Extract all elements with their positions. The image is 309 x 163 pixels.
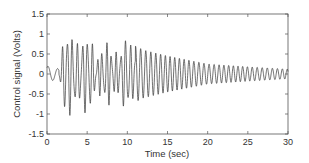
y-tick-label: 0.5 (31, 49, 44, 59)
x-tick-label: 15 (162, 137, 172, 147)
x-tick-label: 0 (44, 137, 49, 147)
plot-area (47, 14, 288, 134)
y-tick-label: -0.5 (28, 89, 44, 99)
y-tick-label: 0 (39, 69, 44, 79)
y-tick-label: -1 (36, 109, 44, 119)
x-tick-label: 25 (243, 137, 253, 147)
line-chart: 051015202530-1.5-1-0.500.511.5 Time (sec… (0, 0, 309, 163)
y-axis-label: Control signal (Volts) (11, 30, 22, 118)
x-tick-label: 20 (203, 137, 213, 147)
x-axis-label: Time (sec) (145, 148, 190, 159)
x-tick-label: 30 (283, 137, 293, 147)
y-tick-label: 1.5 (31, 9, 44, 19)
y-tick-label: 1 (39, 29, 44, 39)
x-tick-label: 10 (122, 137, 132, 147)
x-tick-label: 5 (85, 137, 90, 147)
y-tick-label: -1.5 (28, 129, 44, 139)
